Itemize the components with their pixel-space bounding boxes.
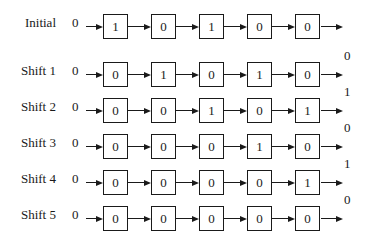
input-bit: 0: [72, 94, 79, 120]
register-cell: 0: [151, 134, 176, 159]
row-label: Shift 5: [0, 202, 56, 228]
arrow-right-icon: [192, 24, 199, 30]
arrow-right-icon: [336, 108, 343, 114]
output-line: [321, 26, 337, 27]
register-cell: 1: [199, 14, 224, 39]
connector-line: [176, 26, 193, 27]
register-cell: 1: [151, 62, 176, 87]
arrow-right-icon: [96, 144, 103, 150]
connector-line: [272, 26, 289, 27]
arrow-right-icon: [192, 144, 199, 150]
arrow-right-icon: [144, 144, 151, 150]
arrow-right-icon: [336, 72, 343, 78]
input-bit: 0: [72, 130, 79, 156]
output-line: [321, 74, 337, 75]
register-cell: 0: [199, 170, 224, 195]
arrow-right-icon: [96, 108, 103, 114]
arrow-right-icon: [288, 72, 295, 78]
arrow-right-icon: [240, 72, 247, 78]
register-row: Shift 40000011: [0, 170, 367, 196]
connector-line: [176, 146, 193, 147]
connector-line: [128, 218, 145, 219]
row-label: Shift 1: [0, 58, 56, 84]
output-line: [321, 218, 337, 219]
register-cell: 0: [151, 170, 176, 195]
row-label: Shift 2: [0, 94, 56, 120]
register-cell: 0: [151, 206, 176, 231]
register-cell: 0: [247, 98, 272, 123]
arrow-right-icon: [288, 24, 295, 30]
arrow-right-icon: [144, 108, 151, 114]
register-cell: 1: [247, 62, 272, 87]
arrow-right-icon: [144, 24, 151, 30]
register-cell: 0: [103, 134, 128, 159]
connector-line: [128, 110, 145, 111]
register-cell: 0: [295, 14, 320, 39]
register-cell: 1: [199, 98, 224, 123]
arrow-right-icon: [336, 144, 343, 150]
arrow-right-icon: [240, 180, 247, 186]
output-line: [321, 146, 337, 147]
output-bit: 0: [344, 49, 351, 63]
connector-line: [272, 74, 289, 75]
arrow-right-icon: [96, 216, 103, 222]
connector-line: [224, 146, 241, 147]
register-row: Shift 30000100: [0, 134, 367, 160]
arrow-right-icon: [240, 24, 247, 30]
arrow-right-icon: [336, 24, 343, 30]
output-line: [321, 110, 337, 111]
connector-line: [128, 26, 145, 27]
arrow-right-icon: [288, 180, 295, 186]
arrow-right-icon: [336, 180, 343, 186]
register-cell: 0: [247, 170, 272, 195]
connector-line: [128, 182, 145, 183]
register-cell: 1: [295, 98, 320, 123]
register-row: Shift 10010100: [0, 62, 367, 88]
register-cell: 1: [103, 14, 128, 39]
register-row: Shift 20001011: [0, 98, 367, 124]
arrow-right-icon: [96, 24, 103, 30]
arrow-right-icon: [192, 216, 199, 222]
connector-line: [176, 110, 193, 111]
register-cell: 0: [295, 62, 320, 87]
register-cell: 0: [295, 206, 320, 231]
arrow-right-icon: [288, 108, 295, 114]
connector-line: [176, 218, 193, 219]
register-cell: 1: [295, 170, 320, 195]
connector-line: [176, 74, 193, 75]
register-cell: 0: [247, 14, 272, 39]
arrow-right-icon: [192, 108, 199, 114]
output-bit: 1: [344, 157, 351, 171]
output-bit: 0: [344, 193, 351, 207]
register-cell: 0: [295, 134, 320, 159]
arrow-right-icon: [192, 180, 199, 186]
register-row: Initial010100: [0, 14, 367, 40]
connector-line: [224, 26, 241, 27]
connector-line: [224, 182, 241, 183]
register-cell: 0: [103, 206, 128, 231]
connector-line: [128, 74, 145, 75]
register-row: Shift 50000000: [0, 206, 367, 232]
connector-line: [272, 182, 289, 183]
arrow-right-icon: [240, 216, 247, 222]
register-cell: 0: [199, 62, 224, 87]
arrow-right-icon: [336, 216, 343, 222]
row-label: Shift 4: [0, 166, 56, 192]
connector-line: [272, 146, 289, 147]
arrow-right-icon: [144, 72, 151, 78]
connector-line: [176, 182, 193, 183]
connector-line: [128, 146, 145, 147]
row-label: Shift 3: [0, 130, 56, 156]
output-bit: 0: [344, 121, 351, 135]
input-bit: 0: [72, 166, 79, 192]
row-label: Initial: [0, 10, 56, 36]
arrow-right-icon: [288, 216, 295, 222]
connector-line: [224, 218, 241, 219]
input-bit: 0: [72, 10, 79, 36]
arrow-right-icon: [240, 108, 247, 114]
register-cell: 0: [247, 206, 272, 231]
arrow-right-icon: [192, 72, 199, 78]
output-bit: 1: [344, 85, 351, 99]
arrow-right-icon: [144, 216, 151, 222]
input-bit: 0: [72, 202, 79, 228]
